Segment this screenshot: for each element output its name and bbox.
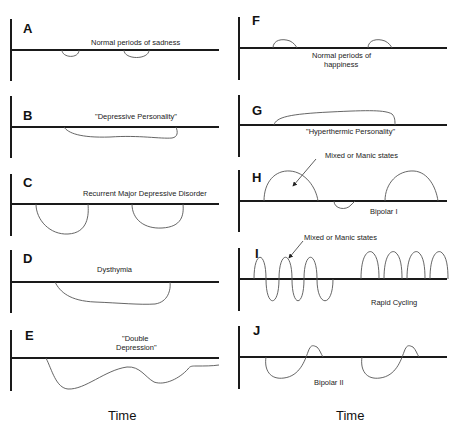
panel-letter: B [23, 108, 32, 123]
x-axis-label-right: Time [336, 408, 364, 423]
panel-letter: H [252, 170, 261, 185]
mood-curve [430, 252, 448, 279]
panel-label: Normal periods of sadness [91, 38, 180, 47]
mood-curve [368, 40, 392, 48]
annotation: Mixed or Manic states [325, 151, 398, 160]
mood-curve [64, 127, 177, 138]
mood-curve [264, 171, 318, 201]
panel-letter: G [252, 103, 262, 118]
mood-curve [385, 171, 438, 201]
panel-label-line2: happiness [324, 60, 358, 69]
panel-a: A Normal periods of sadness [11, 19, 219, 81]
panel-f: F Normal periods of happiness [239, 13, 447, 80]
panel-label-line1: "Double [122, 334, 148, 343]
panel-letter: J [253, 323, 260, 338]
panel-letter: C [23, 175, 33, 190]
mood-curve [36, 204, 88, 234]
mood-curve [274, 111, 395, 125]
panel-b: B "Depressive Personality" [11, 96, 219, 158]
mood-curve [46, 358, 219, 389]
annotation: Mixed or Manic states [304, 233, 377, 242]
panel-label: Recurrent Major Depressive Disorder [83, 189, 207, 198]
panel-label-line1: Normal periods of [312, 51, 372, 60]
panel-letter: E [25, 328, 34, 343]
mood-curve [384, 252, 402, 279]
mood-curve [334, 201, 355, 208]
panel-j: J Bipolar II [239, 323, 447, 389]
panel-g: G "Hyperthermic Personality" [239, 95, 447, 157]
mood-curve [407, 252, 425, 279]
x-axis-label-left: Time [108, 408, 136, 423]
mood-curve [132, 204, 183, 228]
mood-curve [361, 252, 379, 279]
mood-curve [273, 40, 297, 48]
panel-label-line2: Depression" [116, 343, 157, 352]
panel-letter: A [23, 21, 33, 36]
panel-letter: F [252, 13, 260, 28]
panel-letter: D [23, 251, 32, 266]
panel-e: E "Double Depression" [11, 328, 219, 391]
panel-label: Rapid Cycling [371, 298, 417, 307]
panel-label: Bipolar I [370, 207, 398, 216]
mood-curve [362, 346, 419, 379]
mood-disorder-diagram: A Normal periods of sadness B "Depressiv… [0, 0, 465, 429]
panel-i: I Rapid Cycling Mixed or Manic states [239, 233, 448, 311]
panel-label: "Hyperthermic Personality" [306, 127, 395, 136]
mood-curve [266, 346, 323, 379]
mood-curve [55, 282, 170, 304]
panel-label: Dysthymia [97, 265, 133, 274]
panel-c: C Recurrent Major Depressive Disorder [11, 174, 219, 236]
panel-d: D Dysthymia [11, 250, 219, 313]
panel-label: Bipolar II [314, 378, 344, 387]
annotation-arrow [289, 241, 303, 258]
mood-curve [124, 50, 149, 58]
panel-label: "Depressive Personality" [95, 112, 177, 121]
panel-h: H Bipolar I Mixed or Manic states [239, 151, 447, 232]
